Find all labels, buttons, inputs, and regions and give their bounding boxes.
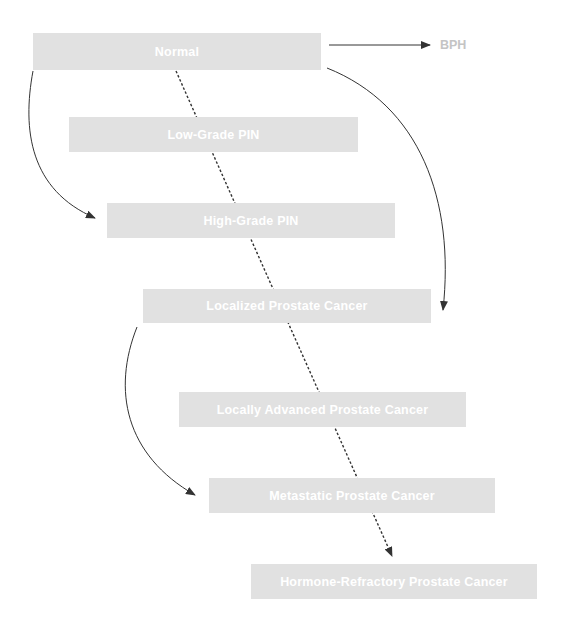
node-label: Normal [155, 45, 199, 59]
arc-normal-to-localized [327, 68, 445, 310]
node-metastatic-prostate-cancer: Metastatic Prostate Cancer [209, 478, 495, 513]
bph-label: BPH [440, 38, 466, 52]
node-label: High-Grade PIN [203, 214, 298, 228]
progression-diagram: Normal BPH Low-Grade PIN High-Grade PIN … [0, 0, 562, 630]
node-label: Locally Advanced Prostate Cancer [217, 403, 429, 417]
node-label: Localized Prostate Cancer [206, 299, 367, 313]
node-localized-prostate-cancer: Localized Prostate Cancer [143, 289, 431, 323]
node-label: Hormone-Refractory Prostate Cancer [280, 575, 508, 589]
node-low-grade-pin: Low-Grade PIN [69, 117, 358, 152]
node-hormone-refractory-prostate-cancer: Hormone-Refractory Prostate Cancer [251, 564, 537, 599]
node-high-grade-pin: High-Grade PIN [107, 203, 395, 238]
node-label: Low-Grade PIN [167, 128, 259, 142]
node-locally-advanced-prostate-cancer: Locally Advanced Prostate Cancer [179, 392, 466, 427]
node-normal: Normal [33, 33, 321, 70]
node-label: Metastatic Prostate Cancer [269, 489, 435, 503]
